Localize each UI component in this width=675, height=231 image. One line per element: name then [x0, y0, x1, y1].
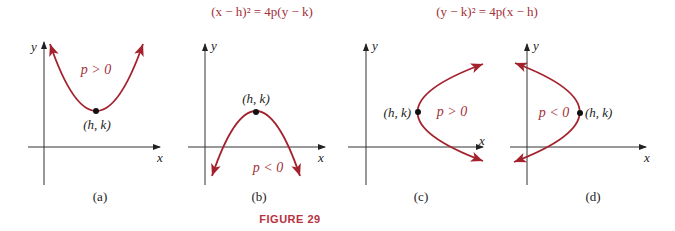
panel-d: y x p < 0 (h, k) (d): [510, 38, 650, 204]
panel-caption: (d): [585, 189, 600, 204]
vertex-label: (h, k): [585, 105, 612, 120]
panel-caption: (c): [414, 189, 428, 204]
y-axis-label: y: [531, 38, 539, 53]
panel-caption: (a): [93, 189, 107, 204]
vertex-point: [415, 109, 421, 115]
vertex-point: [577, 110, 583, 116]
vertex-label: (h, k): [83, 117, 110, 132]
vertex-label: (h, k): [384, 105, 411, 120]
vertex-point: [253, 109, 259, 115]
y-axis-label: y: [209, 38, 217, 53]
figure-label: FIGURE 29: [259, 213, 320, 225]
condition-label: p < 0: [252, 160, 283, 175]
vertex-point: [93, 108, 99, 114]
x-axis-label: x: [643, 150, 650, 165]
parabola-figure: (x − h)² = 4p(y − k) (y − k)² = 4p(x − h…: [0, 0, 675, 231]
equation-vertical: (x − h)² = 4p(y − k): [211, 4, 313, 19]
y-axis-label: y: [29, 39, 37, 54]
panel-b: y x p < 0 (h, k) (b): [188, 38, 325, 204]
panel-c: y x p > 0 (h, k) (c): [348, 38, 485, 204]
condition-label: p > 0: [436, 104, 467, 119]
condition-label: p < 0: [538, 105, 569, 120]
panel-caption: (b): [251, 189, 266, 204]
vertex-label: (h, k): [242, 91, 269, 106]
y-axis-label: y: [370, 38, 378, 53]
equation-horizontal: (y − k)² = 4p(x − h): [436, 4, 538, 19]
x-axis-label: x: [317, 150, 324, 165]
x-axis-label: x: [478, 133, 485, 148]
x-axis-label: x: [156, 150, 163, 165]
condition-label: p > 0: [80, 62, 111, 77]
parabola-curve: [50, 44, 143, 111]
panel-a: y x p > 0 (h, k) (a): [28, 39, 163, 204]
